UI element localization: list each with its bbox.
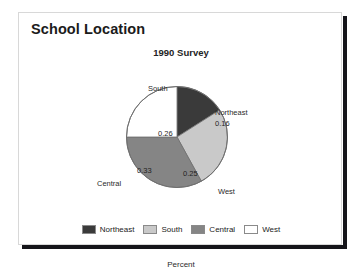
slice-value-northeast: 0.16 xyxy=(215,119,230,128)
legend-swatch-northeast xyxy=(82,225,96,234)
axis-caption: Percent xyxy=(19,260,343,267)
card-shadow-right xyxy=(343,16,347,249)
slice-value-south: 0.26 xyxy=(158,129,173,138)
chart-card: School Location 1990 Survey 0.16 0.26 0.… xyxy=(18,12,342,245)
slice-label-northeast: Northeast xyxy=(215,108,248,117)
slice-value-west: 0.25 xyxy=(183,169,198,178)
legend-swatch-central xyxy=(191,225,205,234)
legend-item-south[interactable]: South xyxy=(143,225,182,234)
slice-label-south: South xyxy=(148,84,168,93)
legend-swatch-south xyxy=(143,225,157,234)
legend-item-central[interactable]: Central xyxy=(191,225,235,234)
chart-title: 1990 Survey xyxy=(19,47,343,58)
chart-legend: NortheastSouthCentralWest xyxy=(19,225,343,234)
legend-label: West xyxy=(262,225,280,234)
legend-label: Northeast xyxy=(100,225,135,234)
slice-value-central: 0.33 xyxy=(137,166,152,175)
slice-label-central: Central xyxy=(97,179,121,188)
legend-label: Central xyxy=(209,225,235,234)
legend-item-northeast[interactable]: Northeast xyxy=(82,225,135,234)
legend-label: South xyxy=(161,225,182,234)
legend-item-west[interactable]: West xyxy=(244,225,280,234)
card-shadow-bottom xyxy=(22,245,347,249)
legend-swatch-west xyxy=(244,225,258,234)
slice-label-west: West xyxy=(218,187,235,196)
page-title: School Location xyxy=(31,21,145,37)
pie-chart-plot-area: 0.16 0.26 0.33 0.25 Northeast South Cent… xyxy=(19,65,343,215)
